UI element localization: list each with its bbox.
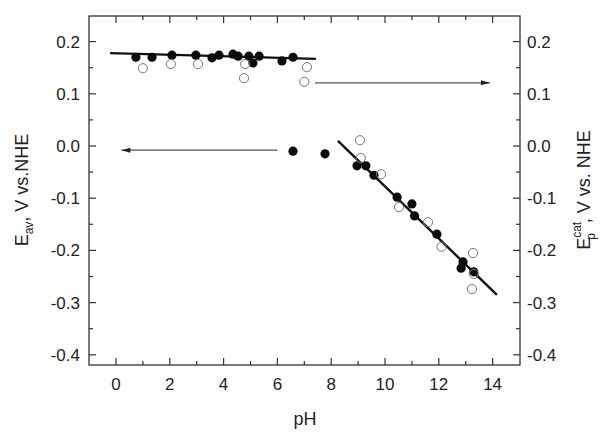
open-circle-point — [468, 248, 477, 257]
open-circle-point — [423, 218, 432, 227]
x-tick-label: 8 — [326, 375, 335, 394]
plot-frame — [89, 16, 520, 365]
filled-circle-point — [469, 267, 478, 276]
y-right-tick-labels: 0.20.10.0-0.1-0.2-0.3-0.4 — [527, 33, 556, 365]
y-right-axis-title: Ecatp, V vs. NHE — [570, 130, 598, 250]
y-left-axis-title: Eav, V vs.NHE — [12, 134, 36, 247]
filled-circle-point — [458, 257, 467, 266]
open-circle-point — [355, 136, 364, 145]
open-circle-point — [241, 59, 250, 68]
x-tick-label: 6 — [273, 375, 282, 394]
y-left-tick-labels: 0.20.10.0-0.1-0.2-0.3-0.4 — [51, 33, 80, 365]
filled-circle-point — [288, 53, 297, 62]
filled-circle-point — [407, 199, 416, 208]
y-left-tick-label: -0.3 — [51, 294, 80, 313]
x-tick-label: 12 — [429, 375, 448, 394]
svg-text:Ecatp, V vs. NHE: Ecatp, V vs. NHE — [570, 130, 598, 250]
filled-circle-point — [320, 149, 329, 158]
filled-circle-point — [432, 230, 441, 239]
y-left-tick-label: 0.0 — [56, 137, 80, 156]
y-left-tick-label: -0.2 — [51, 241, 80, 260]
x-axis-title: pH — [293, 409, 316, 429]
filled-circle-point — [147, 53, 156, 62]
filled-circle-point — [234, 52, 243, 61]
y-left-tick-label: -0.4 — [51, 346, 80, 365]
filled-circle-point — [191, 51, 200, 60]
y-right-tick-label: -0.3 — [527, 294, 556, 313]
y-right-tick-label: 0.0 — [527, 137, 551, 156]
filled-circle-point — [410, 211, 419, 220]
open-circle-point — [138, 64, 147, 73]
filled-circle-point — [131, 53, 140, 62]
y-right-tick-label: -0.2 — [527, 241, 556, 260]
filled-circle-point — [393, 193, 402, 202]
open-circle-point — [467, 284, 476, 293]
filled-circle-point — [167, 51, 176, 60]
filled-circle-point — [214, 51, 223, 60]
open-circle-point — [302, 63, 311, 72]
filled-circle-point — [255, 52, 264, 61]
svg-text:Eav, V vs.NHE: Eav, V vs.NHE — [12, 134, 36, 247]
filled-circle-point — [277, 56, 286, 65]
arrows — [121, 80, 490, 152]
open-circle-point — [300, 77, 309, 86]
open-circle-point — [394, 202, 403, 211]
y-left-tick-label: -0.1 — [51, 189, 80, 208]
x-tick-label: 10 — [376, 375, 395, 394]
fit-lines — [110, 53, 497, 295]
open-circle-point — [239, 74, 248, 83]
open-circle-point — [166, 59, 175, 68]
tick-marks — [89, 16, 520, 365]
x-tick-label: 4 — [219, 375, 228, 394]
x-tick-label: 14 — [483, 375, 502, 394]
open-circle-point — [193, 59, 202, 68]
y-right-tick-label: 0.1 — [527, 85, 551, 104]
x-tick-label: 2 — [165, 375, 174, 394]
y-right-tick-label: 0.2 — [527, 33, 551, 52]
x-tick-labels: 02468101214 — [111, 375, 502, 394]
data-points — [131, 50, 478, 294]
filled-circle-point — [288, 147, 297, 156]
open-circle-point — [437, 242, 446, 251]
y-left-tick-label: 0.2 — [56, 33, 80, 52]
y-right-tick-label: -0.1 — [527, 189, 556, 208]
open-circle-point — [356, 153, 365, 162]
arrow-head-icon — [481, 80, 490, 85]
arrow-head-icon — [121, 148, 130, 153]
y-left-tick-label: 0.1 — [56, 85, 80, 104]
y-right-tick-label: -0.4 — [527, 346, 556, 365]
x-tick-label: 0 — [111, 375, 120, 394]
chart: 02468101214 0.20.10.0-0.1-0.2-0.3-0.4 0.… — [0, 0, 611, 437]
